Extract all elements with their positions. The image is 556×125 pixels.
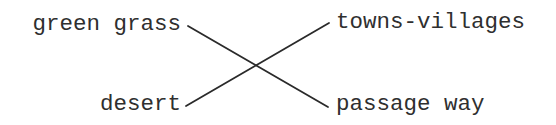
connection-line-desert-to-towns-villages [186, 23, 329, 106]
connection-line-green-grass-to-passage-way [188, 26, 328, 107]
connection-lines [0, 0, 556, 125]
matching-diagram: green grass desert towns-villages passag… [0, 0, 556, 125]
